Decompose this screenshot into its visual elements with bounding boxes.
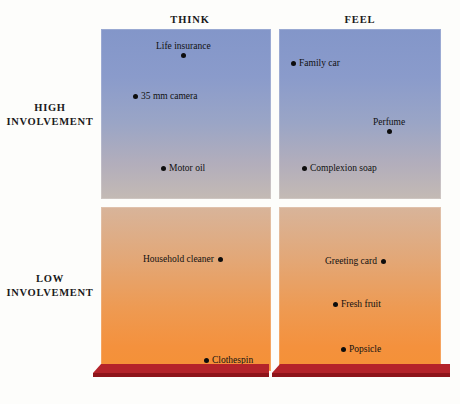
data-point-label: Complexion soap xyxy=(310,163,377,174)
row-label-high-line1: HIGH xyxy=(2,101,98,115)
quadrant-think-high-involvement: Life insurance 35 mm camera Motor oil xyxy=(101,29,271,199)
row-label-high-line2: INVOLVEMENT xyxy=(2,115,98,129)
data-point-label: Perfume xyxy=(373,117,405,128)
data-point-label: Greeting card xyxy=(325,256,377,267)
data-point-label: Fresh fruit xyxy=(341,299,381,310)
quadrant-think-low-involvement: Household cleaner Clothespin xyxy=(101,207,271,371)
data-point-label: Motor oil xyxy=(169,163,205,174)
data-point-dot-icon xyxy=(133,94,138,99)
data-point-dot-icon xyxy=(302,166,307,171)
quadrant-grid: Life insurance 35 mm camera Motor oil Fa… xyxy=(101,29,441,371)
data-point-perfume: Perfume xyxy=(373,117,405,134)
data-point-popsicle: Popsicle xyxy=(341,344,381,355)
data-point-dot-icon xyxy=(387,129,392,134)
column-header-feel: FEEL xyxy=(300,14,420,25)
data-point-label: Family car xyxy=(299,58,340,69)
data-point-dot-icon xyxy=(161,166,166,171)
data-point-fresh-fruit: Fresh fruit xyxy=(333,299,381,310)
fcb-grid-figure: THINK FEEL HIGH INVOLVEMENT LOW INVOLVEM… xyxy=(0,0,460,404)
data-point-dot-icon xyxy=(218,257,223,262)
data-point-35-mm-camera: 35 mm camera xyxy=(133,91,197,102)
base-plinth-left xyxy=(93,364,269,378)
data-point-label: Life insurance xyxy=(156,41,211,52)
quadrant-feel-high-involvement: Family car Perfume Complexion soap xyxy=(279,29,441,199)
data-point-dot-icon xyxy=(333,302,338,307)
base-plinth-left-shape xyxy=(93,364,269,378)
data-point-label: 35 mm camera xyxy=(141,91,197,102)
row-label-high-involvement: HIGH INVOLVEMENT xyxy=(2,101,98,129)
data-point-dot-icon xyxy=(291,61,296,66)
data-point-family-car: Family car xyxy=(291,58,340,69)
data-point-dot-icon xyxy=(181,53,186,58)
data-point-label: Popsicle xyxy=(349,344,381,355)
row-label-low-involvement: LOW INVOLVEMENT xyxy=(2,272,98,300)
data-point-motor-oil: Motor oil xyxy=(161,163,205,174)
data-point-greeting-card: Greeting card xyxy=(325,256,386,267)
data-point-label: Household cleaner xyxy=(143,254,214,265)
data-point-dot-icon xyxy=(204,358,209,363)
column-header-think: THINK xyxy=(130,14,250,25)
base-plinth-right-shape xyxy=(272,364,450,378)
data-point-dot-icon xyxy=(381,259,386,264)
row-label-low-line1: LOW xyxy=(2,272,98,286)
row-label-low-line2: INVOLVEMENT xyxy=(2,286,98,300)
base-plinth-right xyxy=(272,364,450,378)
data-point-life-insurance: Life insurance xyxy=(156,41,211,58)
data-point-complexion-soap: Complexion soap xyxy=(302,163,377,174)
data-point-household-cleaner: Household cleaner xyxy=(143,254,223,265)
quadrant-feel-low-involvement: Greeting card Fresh fruit Popsicle xyxy=(279,207,441,371)
data-point-dot-icon xyxy=(341,347,346,352)
